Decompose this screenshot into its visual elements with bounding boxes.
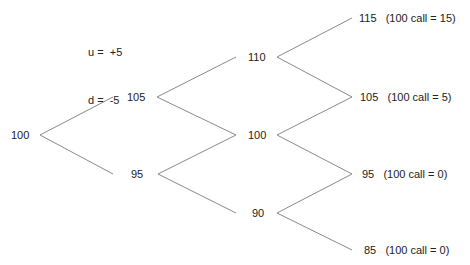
tree-edge bbox=[277, 135, 352, 174]
tree-node-n3udd: 95 (100 call = 0) bbox=[362, 168, 447, 181]
tree-node-n2uu: 110 bbox=[248, 51, 266, 64]
tree-edge bbox=[277, 18, 352, 57]
tree-edge bbox=[158, 174, 236, 213]
tree-node-n3uud: 105 (100 call = 5) bbox=[360, 91, 451, 104]
tree-edge bbox=[40, 135, 113, 174]
tree-node-n2ud: 100 bbox=[248, 129, 266, 142]
tree-edge bbox=[277, 57, 352, 97]
binomial-tree-edges bbox=[0, 0, 470, 265]
tree-node-n3uuu: 115 (100 call = 15) bbox=[359, 12, 456, 25]
tree-edge bbox=[277, 213, 352, 250]
tree-node-n1d: 95 bbox=[131, 168, 143, 181]
tree-edge bbox=[158, 135, 236, 174]
tree-node-n0: 100 bbox=[11, 129, 29, 142]
tree-node-n2dd: 90 bbox=[252, 207, 264, 220]
tree-edge bbox=[277, 174, 352, 213]
tree-edge bbox=[157, 57, 236, 97]
tree-node-n1u: 105 bbox=[127, 91, 145, 104]
tree-edge bbox=[277, 97, 352, 135]
tree-edge bbox=[40, 97, 113, 135]
tree-edge bbox=[157, 97, 236, 135]
tree-node-n3ddd: 85 (100 call = 0) bbox=[364, 244, 449, 257]
